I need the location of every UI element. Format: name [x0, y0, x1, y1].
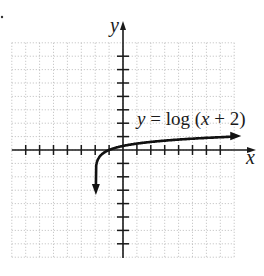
y-axis-arrow-icon: [120, 21, 126, 30]
equation-label: y = log (x + 2): [135, 108, 246, 130]
corner-dot: [1, 16, 3, 18]
curve-arrow-right-icon: [230, 132, 241, 141]
equation-middle: = log (: [145, 108, 201, 130]
curve-arrow-down-icon: [92, 184, 100, 195]
x-axis-label: x: [245, 146, 255, 168]
equation-tail: + 2): [209, 108, 245, 130]
curve-log-x-plus-2: [96, 137, 231, 186]
log-function-graph: y x y = log (x + 2): [0, 0, 264, 276]
y-axis-label: y: [108, 14, 119, 37]
equation-y: y: [135, 108, 146, 129]
